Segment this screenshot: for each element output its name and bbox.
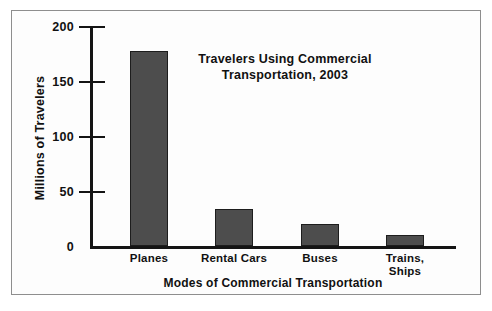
bar-planes <box>130 51 168 246</box>
y-tick-mark-50 <box>79 191 105 193</box>
x-category-label-buses-line1: Buses <box>302 252 338 264</box>
figure-root: 200 150 100 50 0 Millions of Travelers P… <box>0 0 492 311</box>
x-category-label-buses: Buses <box>280 252 360 265</box>
x-category-label-planes: Planes <box>109 252 189 265</box>
y-tick-label-200: 200 <box>28 20 74 34</box>
y-tick-mark-100 <box>79 136 105 138</box>
y-axis-title: Millions of Travelers <box>33 68 47 208</box>
chart-title: Travelers Using Commercial Transportatio… <box>180 51 390 83</box>
x-category-label-trains-ships: Trains, Ships <box>365 252 445 278</box>
y-tick-mark-150 <box>79 81 105 83</box>
chart-title-line2: Transportation, 2003 <box>180 67 390 83</box>
x-category-label-rental-cars: Rental Cars <box>194 252 274 265</box>
bar-buses <box>301 224 339 246</box>
x-category-label-planes-line1: Planes <box>130 252 168 264</box>
bar-rental-cars <box>215 209 253 246</box>
x-axis-title: Modes of Commercial Transportation <box>90 276 456 290</box>
bar-trains-ships <box>386 235 424 246</box>
x-category-label-rental-cars-line1: Rental Cars <box>201 252 267 264</box>
y-tick-mark-200 <box>79 26 105 28</box>
y-tick-label-0: 0 <box>28 240 74 254</box>
x-category-label-trains-ships-line1: Trains, <box>365 252 445 265</box>
chart-title-line1: Travelers Using Commercial <box>180 51 390 67</box>
plot-area: 200 150 100 50 0 Millions of Travelers P… <box>0 0 492 311</box>
x-axis-line <box>90 246 456 249</box>
